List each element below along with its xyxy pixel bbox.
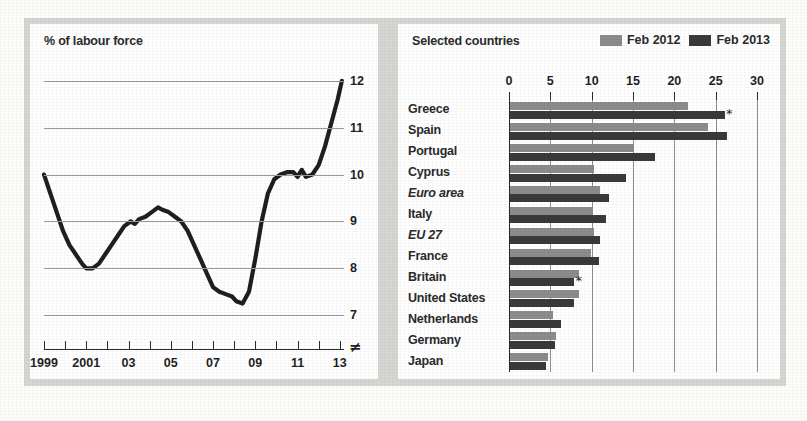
bar-eu-27-feb-2012 <box>510 228 594 236</box>
bar-euro-area-feb-2012 <box>510 186 600 194</box>
bar-germany-feb-2013 <box>510 341 555 349</box>
gridline-y-7 <box>44 315 344 316</box>
line-series-path <box>44 62 344 334</box>
bar-axis-label-10: 10 <box>585 74 599 88</box>
bar-spain-feb-2012 <box>510 123 708 131</box>
gridline-y-8 <box>44 268 344 269</box>
x-axis-tick-2002 <box>107 341 108 349</box>
x-axis-tick-2013 <box>340 341 341 349</box>
bar-axis-label-5: 5 <box>547 74 554 88</box>
bar-category-label-euro-area: Euro area <box>408 186 464 200</box>
bar-chart-plot: 051015202530** <box>509 100 757 372</box>
bar-axis-tick-30 <box>757 92 758 100</box>
gridline-x-30 <box>757 100 758 372</box>
y-axis-label-9: 9 <box>350 221 357 222</box>
line-chart-title: % of labour force <box>44 34 143 48</box>
footnote-marker-icon: * <box>726 106 733 121</box>
x-axis-label-05: 05 <box>164 356 178 370</box>
bar-axis-tick-25 <box>716 92 717 100</box>
gridline-x-15 <box>633 100 634 372</box>
bar-category-label-netherlands: Netherlands <box>408 312 478 326</box>
bar-united-states-feb-2013 <box>510 299 574 307</box>
y-axis-label-7: 7 <box>350 315 357 316</box>
bar-cyprus-feb-2012 <box>510 165 594 173</box>
bar-category-label-united-states: United States <box>408 291 485 305</box>
bar-japan-feb-2012 <box>510 353 548 361</box>
gridline-y-10 <box>44 175 344 176</box>
bar-category-label-japan: Japan <box>408 354 443 368</box>
bar-category-label-eu-27: EU 27 <box>408 228 442 242</box>
bar-britain-feb-2012 <box>510 270 579 278</box>
bar-greece-feb-2013: * <box>510 111 725 119</box>
bar-italy-feb-2013 <box>510 215 606 223</box>
x-axis-tick-1999 <box>44 341 45 349</box>
x-axis-tick-2004 <box>150 341 151 349</box>
bar-category-label-portugal: Portugal <box>408 144 457 158</box>
bar-cyprus-feb-2013 <box>510 174 626 182</box>
gridline-y-12 <box>44 81 344 82</box>
bar-japan-feb-2013 <box>510 362 546 370</box>
bar-axis-label-15: 15 <box>626 74 640 88</box>
line-chart-plot: 789101112 <box>44 62 344 334</box>
x-axis-label-1999: 1999 <box>30 356 58 370</box>
bar-category-label-britain: Britain <box>408 270 446 284</box>
bar-axis-label-25: 25 <box>709 74 723 88</box>
x-axis-label-09: 09 <box>248 356 262 370</box>
gridline-y-11 <box>44 128 344 129</box>
bar-chart-panel: Selected countries Feb 2012 Feb 2013 051… <box>398 24 780 379</box>
gridline-x-25 <box>716 100 717 372</box>
bar-chart-area: 051015202530** GreeceSpainPortugalCyprus… <box>398 24 780 379</box>
x-axis-tick-2005 <box>171 341 172 349</box>
bar-axis-tick-15 <box>633 92 634 100</box>
bar-france-feb-2012 <box>510 249 591 257</box>
bar-axis-label-0: 0 <box>506 74 513 88</box>
y-axis-label-10: 10 <box>350 175 364 176</box>
bar-category-label-cyprus: Cyprus <box>408 165 450 179</box>
bar-axis-label-30: 30 <box>750 74 764 88</box>
y-axis-label-12: 12 <box>350 81 364 82</box>
x-axis-tick-2006 <box>192 341 193 349</box>
bar-spain-feb-2013 <box>510 132 727 140</box>
x-axis-tick-2007 <box>213 341 214 349</box>
gridline-x-20 <box>674 100 675 372</box>
x-axis-tick-2001 <box>86 341 87 349</box>
bar-axis-tick-0 <box>509 92 510 100</box>
x-axis-label-07: 07 <box>206 356 220 370</box>
bar-axis-tick-10 <box>592 92 593 100</box>
x-axis-tick-2009 <box>255 341 256 349</box>
x-axis-tick-2003 <box>129 341 130 349</box>
x-axis-tick-2008 <box>234 341 235 349</box>
bar-greece-feb-2012 <box>510 102 688 110</box>
bar-eu-27-feb-2013 <box>510 236 600 244</box>
bar-category-label-france: France <box>408 249 448 263</box>
x-axis-label-2001: 2001 <box>72 356 100 370</box>
x-axis-tick-2012 <box>319 341 320 349</box>
y-axis-label-8: 8 <box>350 268 357 269</box>
bar-germany-feb-2012 <box>510 332 556 340</box>
bar-axis-tick-20 <box>674 92 675 100</box>
bar-category-label-greece: Greece <box>408 102 449 116</box>
scanned-page: % of labour force 789101112 ≠ 1999200103… <box>0 0 807 421</box>
line-chart-panel: % of labour force 789101112 ≠ 1999200103… <box>30 24 378 379</box>
x-axis-label-03: 03 <box>122 356 136 370</box>
bar-united-states-feb-2012 <box>510 290 579 298</box>
y-axis-label-11: 11 <box>350 128 363 129</box>
bar-euro-area-feb-2013 <box>510 194 609 202</box>
bar-category-label-italy: Italy <box>408 207 432 221</box>
footnote-marker-icon: * <box>575 273 582 288</box>
x-axis-tick-2011 <box>298 341 299 349</box>
bar-category-label-spain: Spain <box>408 123 441 137</box>
bar-france-feb-2013 <box>510 257 599 265</box>
bar-netherlands-feb-2013 <box>510 320 561 328</box>
x-axis-tick-2010 <box>276 341 277 349</box>
bar-portugal-feb-2012 <box>510 144 634 152</box>
bar-netherlands-feb-2012 <box>510 311 553 319</box>
axis-break-icon: ≠ <box>349 338 362 356</box>
x-axis-label-11: 11 <box>291 356 304 370</box>
line-chart-x-axis <box>44 349 344 350</box>
bar-portugal-feb-2013 <box>510 153 655 161</box>
bar-category-label-germany: Germany <box>408 333 461 347</box>
bar-axis-tick-5 <box>550 92 551 100</box>
bar-britain-feb-2013: * <box>510 278 574 286</box>
x-axis-label-13: 13 <box>333 356 347 370</box>
